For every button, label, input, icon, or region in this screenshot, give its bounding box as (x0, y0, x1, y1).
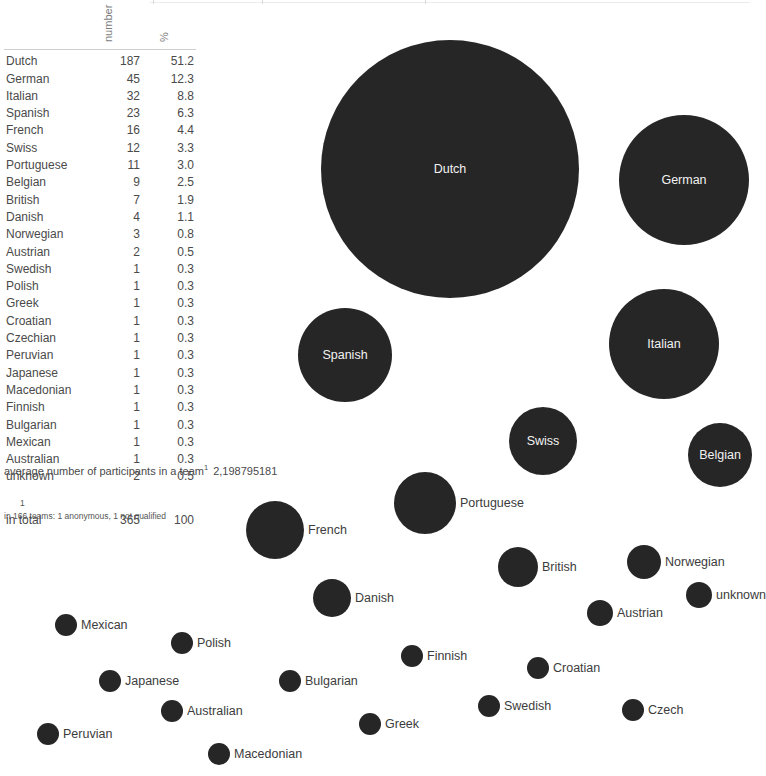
cell-percent: 0.5 (144, 240, 196, 257)
cell-nationality: Finnish (4, 396, 84, 413)
cell-nationality: British (4, 188, 84, 205)
bubble-label: Swiss (527, 434, 560, 448)
cell-nationality: Portuguese (4, 154, 84, 171)
bubble-label: Danish (355, 591, 394, 605)
bubble-circle[interactable] (686, 582, 712, 608)
bubble-label: Norwegian (665, 555, 725, 569)
table-row: Peruvian10.3 (4, 344, 196, 361)
bubble-label: Italian (647, 337, 680, 351)
bubble-label: Austrian (617, 606, 663, 620)
cell-percent: 0.3 (144, 327, 196, 344)
cell-number: 1 (84, 344, 144, 361)
bubble-circle[interactable] (208, 743, 230, 765)
cell-number: 9 (84, 171, 144, 188)
cell-nationality: Italian (4, 85, 84, 102)
cell-percent: 6.3 (144, 102, 196, 119)
table-header-row: number % (4, 0, 196, 46)
bubble-circle[interactable] (246, 501, 304, 559)
cell-percent: 0.3 (144, 344, 196, 361)
average-participants-note: average number of participants in a team… (4, 463, 277, 477)
bubble-label: Dutch (434, 162, 467, 176)
cell-percent: 0.3 (144, 379, 196, 396)
header-number-wrap: number (84, 0, 144, 44)
bubble-label: Belgian (699, 448, 741, 462)
bubble-circle[interactable] (478, 695, 500, 717)
cell-percent: 0.8 (144, 223, 196, 240)
cell-number: 1 (84, 292, 144, 309)
table-row: Norwegian30.8 (4, 223, 196, 240)
bubble-circle[interactable] (627, 545, 661, 579)
header-percent-label: % (159, 32, 170, 42)
bubble-circle[interactable] (171, 632, 193, 654)
table-row: Swedish10.3 (4, 258, 196, 275)
cell-number: 11 (84, 154, 144, 171)
bubble-label: Bulgarian (305, 674, 358, 688)
cell-number: 187 (84, 50, 144, 68)
cell-percent: 3.0 (144, 154, 196, 171)
cell-nationality: Croatian (4, 309, 84, 326)
bubble-circle[interactable] (279, 670, 301, 692)
average-value: 2,198795181 (213, 465, 277, 477)
cell-nationality: Swedish (4, 258, 84, 275)
bubble-circle[interactable] (394, 472, 456, 534)
cell-nationality: Macedonian (4, 379, 84, 396)
cell-nationality: Mexican (4, 431, 84, 448)
bubble-label: Australian (187, 704, 243, 718)
bubble-label: Portuguese (460, 496, 524, 510)
cell-number: 4 (84, 206, 144, 223)
cell-nationality: Danish (4, 206, 84, 223)
cell-percent: 8.8 (144, 85, 196, 102)
table-row: Greek10.3 (4, 292, 196, 309)
bubble-circle[interactable] (359, 713, 381, 735)
header-number-label: number (103, 5, 114, 42)
cell-nationality: Spanish (4, 102, 84, 119)
cell-percent: 0.3 (144, 413, 196, 430)
table-row: Swiss123.3 (4, 136, 196, 153)
cell-nationality: Bulgarian (4, 413, 84, 430)
cell-number: 2 (84, 240, 144, 257)
average-footnote-marker: 1 (204, 463, 208, 472)
bubble-label: German (661, 173, 706, 187)
bubble-circle[interactable] (55, 614, 77, 636)
bubble-label: Spanish (322, 348, 367, 362)
bubble-label: Czech (648, 703, 683, 717)
table-row: Austrian20.5 (4, 240, 196, 257)
table-row: Spanish236.3 (4, 102, 196, 119)
bubble-label: Macedonian (234, 747, 302, 761)
bubble-circle[interactable] (527, 657, 549, 679)
cell-number: 1 (84, 379, 144, 396)
bubble-circle[interactable] (587, 600, 613, 626)
footnote-marker: 1 (20, 497, 166, 510)
table-head: number % (4, 0, 196, 50)
table-row: Polish10.3 (4, 275, 196, 292)
cell-number: 23 (84, 102, 144, 119)
bubble-circle[interactable] (161, 700, 183, 722)
bubble-circle[interactable] (37, 723, 59, 745)
cell-percent: 0.3 (144, 361, 196, 378)
bubble-circle[interactable] (99, 670, 121, 692)
footnote-block: 1 in 166 teams: 1 anonymous, 1 not quali… (4, 497, 166, 523)
bubble-label: Croatian (553, 661, 600, 675)
frequency-table: number % Dutch18751.2German4512.3Italian… (4, 0, 196, 526)
bubble-label: Japanese (125, 674, 179, 688)
cell-percent: 12.3 (144, 67, 196, 84)
bubble-circle[interactable] (401, 645, 423, 667)
cell-percent: 1.9 (144, 188, 196, 205)
table-row: Danish41.1 (4, 206, 196, 223)
bubble-circle[interactable] (498, 547, 538, 587)
cell-percent: 0.3 (144, 292, 196, 309)
table-row: Czechian10.3 (4, 327, 196, 344)
cell-nationality: Belgian (4, 171, 84, 188)
table-row: Italian328.8 (4, 85, 196, 102)
bubble-circle[interactable] (313, 579, 351, 617)
cell-nationality: Peruvian (4, 344, 84, 361)
table-row: Mexican10.3 (4, 431, 196, 448)
bubble-label: Greek (385, 717, 419, 731)
header-percent-wrap: % (144, 0, 196, 44)
cell-percent: 51.2 (144, 50, 196, 68)
table-body: Dutch18751.2German4512.3Italian328.8Span… (4, 50, 196, 527)
cell-percent: 2.5 (144, 171, 196, 188)
cell-number: 1 (84, 309, 144, 326)
cell-number: 1 (84, 327, 144, 344)
bubble-circle[interactable] (622, 699, 644, 721)
